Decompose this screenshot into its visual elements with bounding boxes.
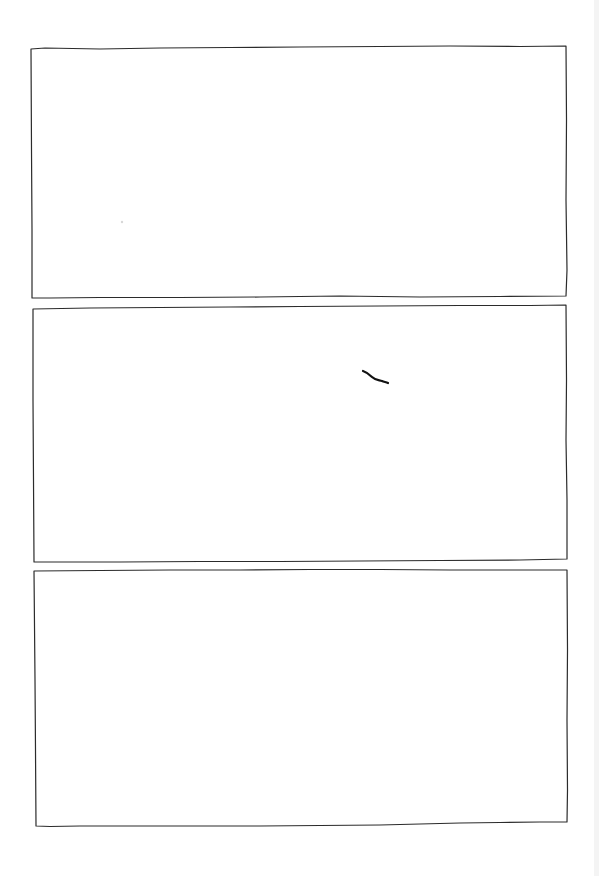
panel-3-border [34,570,568,827]
panel-2-border [33,305,567,562]
panel-1 [31,46,567,298]
panel-2 [33,305,567,562]
comic-page [0,0,599,876]
paper-edge-shade [594,0,599,876]
panel-1-border [31,46,567,298]
ink-stroke [363,371,388,383]
paper-speck [121,221,123,223]
panel-3 [34,570,568,827]
comic-page-canvas [0,0,599,876]
